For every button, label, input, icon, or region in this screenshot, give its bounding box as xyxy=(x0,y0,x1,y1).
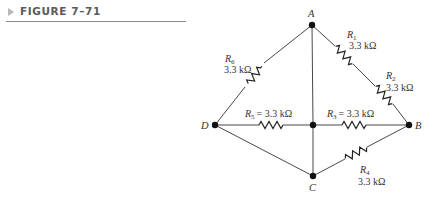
r4-label: R4 3.3 kΩ xyxy=(358,164,385,187)
circuit-diagram: A B C D R6 3.3 kΩ R1 3.3 kΩ R2 3.3 kΩ R5… xyxy=(0,0,445,200)
node-a-label: A xyxy=(307,8,315,19)
node-d-label: D xyxy=(200,120,209,131)
node-b-label: B xyxy=(415,120,422,131)
svg-text:3.3 kΩ: 3.3 kΩ xyxy=(349,40,376,51)
svg-text:R3= 3.3 kΩ: R3= 3.3 kΩ xyxy=(326,108,374,121)
node-c-dot xyxy=(310,173,316,179)
svg-text:R5= 3.3 kΩ: R5= 3.3 kΩ xyxy=(244,108,292,121)
node-d-dot xyxy=(212,122,218,128)
node-c-label: C xyxy=(309,182,317,193)
r1-label: R1 3.3 kΩ xyxy=(346,29,376,51)
svg-text:3.3 kΩ: 3.3 kΩ xyxy=(358,176,385,187)
node-center-dot xyxy=(310,122,316,128)
wire-a-center xyxy=(312,25,313,125)
r5-label: R5= 3.3 kΩ xyxy=(244,108,292,121)
node-a-dot xyxy=(309,22,315,28)
node-b-dot xyxy=(406,122,412,128)
svg-text:3.3 kΩ: 3.3 kΩ xyxy=(386,82,413,93)
svg-text:3.3 kΩ: 3.3 kΩ xyxy=(224,64,251,75)
wire-d-c xyxy=(215,125,313,176)
r2-label: R2 3.3 kΩ xyxy=(385,70,413,93)
resistor-r3-branch xyxy=(313,122,409,129)
r3-label: R3= 3.3 kΩ xyxy=(326,108,374,121)
resistor-r5-branch xyxy=(215,122,313,129)
r6-label: R6 3.3 kΩ xyxy=(224,53,251,75)
